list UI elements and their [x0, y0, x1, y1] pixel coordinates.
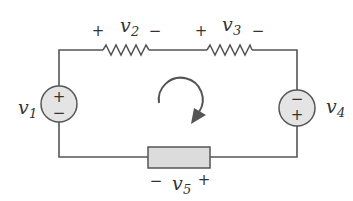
label-v2: + v 2 − [92, 14, 162, 40]
svg-text:4: 4 [336, 105, 345, 120]
v5-plus-sign: + [198, 171, 211, 189]
v2-plus-sign: + [92, 22, 105, 40]
svg-text:v: v [326, 95, 337, 117]
element-v5-box-icon [148, 147, 210, 168]
resistor-v2-icon [103, 45, 149, 55]
circuit-diagram: + − − + v 1 v 4 + v 2 [0, 0, 353, 201]
label-v3: + v 3 − [195, 13, 265, 40]
label-v4: v 4 [326, 95, 345, 120]
wires [59, 50, 297, 157]
svg-text:v: v [120, 14, 131, 36]
voltage-source-v1: + − [41, 86, 77, 122]
wire-bottom-right [210, 126, 297, 157]
loop-direction-arrow-icon [159, 78, 206, 124]
svg-text:v: v [222, 13, 233, 35]
resistor-v3-icon [207, 45, 252, 55]
circuit-canvas: + − − + v 1 v 4 + v 2 [0, 0, 353, 201]
svg-text:5: 5 [183, 182, 191, 197]
svg-text:2: 2 [130, 24, 139, 39]
v2-minus-sign: − [149, 22, 162, 40]
svg-text:3: 3 [233, 23, 241, 38]
source-v4-bottom-sign: + [291, 106, 304, 124]
svg-text:1: 1 [29, 106, 37, 121]
v3-plus-sign: + [195, 22, 208, 40]
wire-top-right [252, 50, 297, 90]
label-v5: − v 5 + [150, 171, 211, 197]
svg-text:v: v [18, 96, 29, 118]
v5-minus-sign: − [150, 172, 163, 190]
voltage-source-v4: − + [279, 90, 315, 126]
svg-text:v: v [172, 172, 183, 194]
source-v1-bottom-sign: − [53, 104, 66, 122]
wire-top-left [59, 50, 103, 86]
label-v1: v 1 [18, 96, 37, 121]
wire-bottom-left [59, 122, 148, 157]
v3-minus-sign: − [252, 22, 265, 40]
